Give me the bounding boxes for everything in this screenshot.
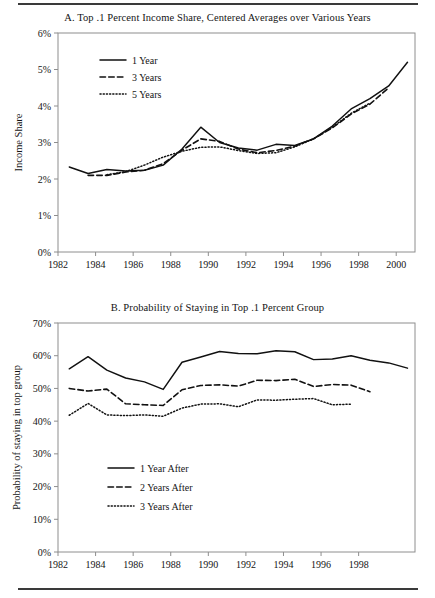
y-tick-label: 3% [38, 137, 51, 148]
x-tick-label: 1984 [86, 559, 106, 570]
legend-label: 3 Years After [140, 501, 193, 512]
x-tick-label: 1988 [161, 559, 181, 570]
x-tick-label: 1984 [86, 259, 106, 270]
series-line [69, 399, 351, 417]
panel-b-plot: 0%10%20%30%40%50%60%70%19821984198619881… [0, 302, 435, 584]
panel-b: B. Probability of Staying in Top .1 Perc… [0, 302, 435, 584]
x-tick-label: 1998 [349, 259, 369, 270]
x-tick-label: 1982 [48, 559, 68, 570]
legend-label: 5 Years [132, 89, 162, 100]
y-tick-label: 50% [33, 383, 51, 394]
y-tick-label: 4% [38, 101, 51, 112]
x-tick-label: 1994 [273, 559, 293, 570]
x-tick-label: 1982 [48, 259, 68, 270]
y-tick-label: 0% [38, 247, 51, 258]
x-tick-label: 1990 [198, 559, 218, 570]
x-tick-label: 1996 [311, 259, 331, 270]
series-line [88, 88, 389, 176]
series-line [107, 103, 370, 175]
x-tick-label: 1992 [236, 259, 256, 270]
x-tick-label: 1996 [311, 559, 331, 570]
panel-a-plot: 0%1%2%3%4%5%6%19821984198619881990199219… [0, 12, 435, 292]
y-tick-label: 0% [38, 547, 51, 558]
y-tick-label: 60% [33, 350, 51, 361]
y-tick-label: 10% [33, 514, 51, 525]
x-tick-label: 1986 [123, 259, 143, 270]
series-line [69, 351, 407, 390]
x-tick-label: 1990 [198, 259, 218, 270]
y-tick-label: 2% [38, 174, 51, 185]
legend-label: 1 Year [132, 55, 158, 66]
figure-container: A. Top .1 Percent Income Share, Centered… [0, 0, 435, 598]
x-tick-label: 2000 [386, 259, 406, 270]
y-tick-label: 1% [38, 210, 51, 221]
bottom-rule [18, 588, 418, 590]
plot-frame [58, 33, 415, 252]
series-line [69, 62, 407, 173]
plot-frame [58, 323, 415, 552]
y-tick-label: 70% [33, 318, 51, 329]
x-tick-label: 1988 [161, 259, 181, 270]
legend-label: 2 Years After [140, 482, 193, 493]
legend-label: 1 Year After [140, 463, 189, 474]
top-rule [18, 3, 418, 5]
y-tick-label: 20% [33, 481, 51, 492]
y-tick-label: 30% [33, 448, 51, 459]
x-tick-label: 1986 [123, 559, 143, 570]
legend-label: 3 Years [132, 72, 162, 83]
x-tick-label: 1994 [273, 259, 293, 270]
y-tick-label: 40% [33, 416, 51, 427]
x-tick-label: 1998 [349, 559, 369, 570]
y-axis-title: Income Share [13, 113, 24, 171]
x-tick-label: 1992 [236, 559, 256, 570]
y-tick-label: 6% [38, 28, 51, 39]
y-axis-title: Probability of staying in top group [11, 365, 22, 510]
y-tick-label: 5% [38, 64, 51, 75]
panel-a: A. Top .1 Percent Income Share, Centered… [0, 12, 435, 292]
